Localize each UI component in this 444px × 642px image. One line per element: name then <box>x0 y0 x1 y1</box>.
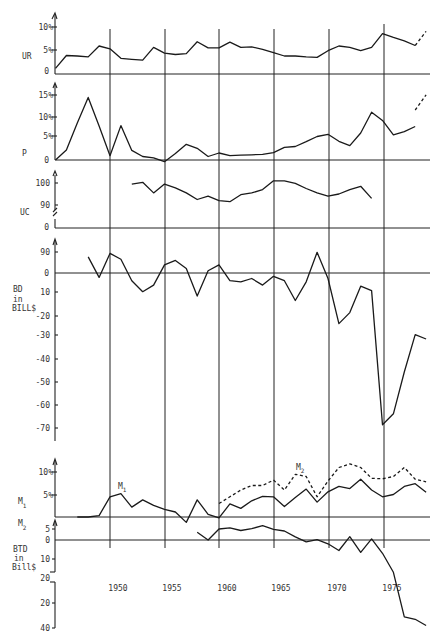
tick-labels: 10% 5% 0 15% 10% 5% 0 100 90 0 90 0 10 -… <box>36 23 54 633</box>
svg-text:0: 0 <box>44 223 49 232</box>
y-axes <box>50 13 58 628</box>
svg-text:-20: -20 <box>36 312 51 321</box>
p-p-line <box>56 97 416 161</box>
svg-text:1965: 1965 <box>271 584 290 593</box>
series-layer <box>56 31 427 625</box>
svg-text:5%: 5% <box>43 46 53 55</box>
ur-label: UR <box>22 52 32 61</box>
uc-uc-line <box>132 181 372 202</box>
svg-text:10%: 10% <box>39 113 54 122</box>
svg-text:90: 90 <box>40 201 50 210</box>
svg-text:1955: 1955 <box>162 584 181 593</box>
btd-label-line2: in <box>14 554 24 563</box>
svg-text:0: 0 <box>45 536 50 545</box>
m2-label: M2 <box>18 519 27 531</box>
svg-text:10: 10 <box>40 288 50 297</box>
btd-label-line3: Bill$ <box>12 563 36 572</box>
svg-text:-40: -40 <box>36 355 51 364</box>
svg-text:1960: 1960 <box>217 584 236 593</box>
economic-indicators-chart: UR P UC BD in BILL$ M1 M2 BTD in Bill$ 1… <box>0 0 444 642</box>
svg-text:-70: -70 <box>36 424 51 433</box>
svg-text:100: 100 <box>36 179 51 188</box>
bd-label-line2: in <box>13 295 23 304</box>
svg-text:20: 20 <box>40 599 50 608</box>
svg-text:90: 90 <box>40 248 50 257</box>
svg-text:-50: -50 <box>36 378 51 387</box>
svg-text:1970: 1970 <box>327 584 346 593</box>
svg-text:-30: -30 <box>36 331 51 340</box>
m1-m2-m1-line <box>77 479 426 522</box>
svg-text:0: 0 <box>44 269 49 278</box>
svg-text:10: 10 <box>40 555 50 564</box>
m2-annotation: M2 <box>296 463 305 474</box>
svg-text:15%: 15% <box>39 91 54 100</box>
svg-text:10%: 10% <box>39 468 54 477</box>
p-p-projected--line <box>415 95 426 110</box>
bd-bd-line <box>88 252 426 424</box>
svg-text:20: 20 <box>40 574 50 583</box>
ur-ur-line <box>56 34 416 69</box>
bd-label-line3: BILL$ <box>12 304 36 313</box>
p-label: P <box>22 149 27 158</box>
bd-label-line1: BD <box>13 285 23 294</box>
svg-text:0: 0 <box>44 67 49 76</box>
svg-text:5%: 5% <box>43 491 53 500</box>
panel-labels: UR P UC BD in BILL$ M1 M2 BTD in Bill$ <box>12 52 36 572</box>
baselines <box>55 74 430 540</box>
svg-text:10%: 10% <box>39 23 54 32</box>
svg-text:40: 40 <box>40 624 50 633</box>
x-axis-labels: 1950 1955 1960 1965 1970 1975 <box>108 584 401 593</box>
svg-text:1950: 1950 <box>108 584 127 593</box>
svg-text:-60: -60 <box>36 401 51 410</box>
btd-label-line1: BTD <box>13 545 28 554</box>
svg-text:5: 5 <box>45 525 50 534</box>
m1-annotation: M1 <box>118 482 127 493</box>
ur-ur-projected--line <box>415 31 426 45</box>
svg-text:5%: 5% <box>43 132 53 141</box>
uc-label: UC <box>20 208 30 217</box>
svg-text:1975: 1975 <box>382 584 401 593</box>
btd-btd-line <box>197 526 426 626</box>
svg-text:0: 0 <box>44 156 49 165</box>
m1-label: M1 <box>18 497 27 509</box>
